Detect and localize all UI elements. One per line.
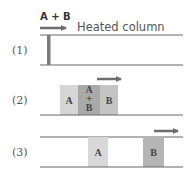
chromatography-diagram: A + B Heated column (1) (2) (3) A A + B … xyxy=(0,0,193,178)
injection-label: A + B xyxy=(40,11,71,22)
band-b-label: B xyxy=(143,147,164,158)
band-b-label: B xyxy=(100,95,118,106)
stage-label-1: (1) xyxy=(12,44,28,57)
diagram-title: Heated column xyxy=(77,20,165,34)
band-a-plus-b-label: A + B xyxy=(78,85,100,112)
stage-label-2: (2) xyxy=(12,94,28,107)
band-a-label: A xyxy=(60,95,78,106)
band-mixed-bottom: B xyxy=(78,103,100,112)
injection-band xyxy=(47,35,51,65)
stage-label-3: (3) xyxy=(12,146,28,159)
band-a-label: A xyxy=(88,147,108,158)
